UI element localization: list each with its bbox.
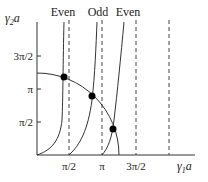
x-tick-label-3pi2: 3π/2 [126,160,146,172]
odd-curve [69,22,97,155]
y-tick-label-pi2: π/2 [19,116,33,128]
well-solution-diagram: γ2a γ1a 3π/2 π π/2 π/2 π 3π/2 Even Odd E… [0,0,208,182]
circle-arc [37,73,119,155]
intersection-point-3 [110,126,117,133]
intersection-point-1 [61,74,68,81]
y-axis-label: γ2a [5,11,20,27]
x-axis-label: γ1a [177,159,192,175]
intersection-point-2 [89,93,96,100]
x-tick-label-pi2: π/2 [62,160,76,172]
y-tick-label-3pi2: 3π/2 [13,50,33,62]
curve-label-even-1: Even [51,5,76,19]
curve-label-odd: Odd [88,5,109,19]
even-curve-1 [37,22,64,155]
even-curve-2 [102,22,124,155]
x-tick-label-pi: π [99,160,105,172]
y-tick-label-pi: π [27,83,33,95]
curve-label-even-2: Even [116,5,141,19]
